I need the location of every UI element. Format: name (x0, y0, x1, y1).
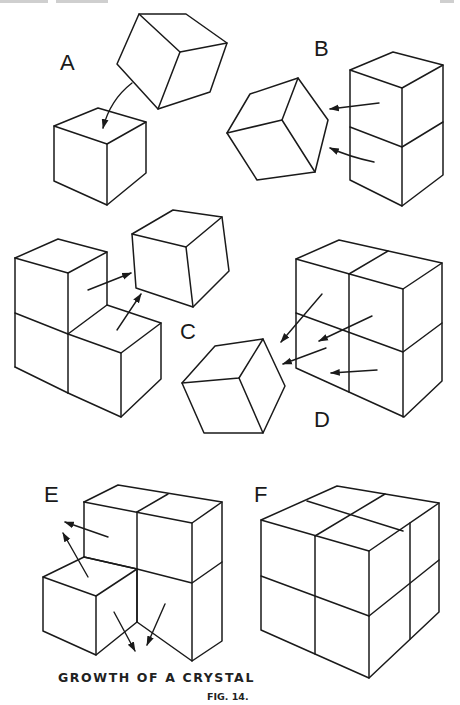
arrow-d-3 (283, 348, 326, 364)
crystal-growth-figure: A B (0, 0, 460, 705)
panel-b: B (227, 36, 443, 206)
arrow-b-upper (330, 103, 379, 109)
cube-free-c (132, 210, 229, 307)
arrow-b-lower (330, 148, 374, 162)
cube-base-a (54, 108, 146, 205)
panel-label-f: F (254, 482, 267, 507)
arrow-d-1 (281, 294, 322, 342)
panel-c: C (15, 210, 229, 417)
panel-f: F (254, 482, 439, 678)
arrow-e-left (65, 522, 108, 537)
arrow-attach-a (103, 83, 132, 128)
arrow-d-4 (331, 370, 377, 373)
panel-a: A (54, 14, 227, 205)
panel-label-c: C (180, 319, 196, 344)
cube-block-d (296, 240, 442, 417)
panel-d: D (182, 240, 442, 433)
cube-stack-b (350, 52, 443, 206)
cube-incoming-d (182, 339, 285, 433)
panel-label-e: E (44, 482, 59, 507)
cube-block-e (43, 485, 222, 661)
cube-complete-f (261, 486, 439, 678)
cube-group-c (15, 239, 161, 417)
figure-title: GROWTH OF A CRYSTAL (58, 670, 255, 685)
figure-number: FIG. 14. (207, 691, 249, 702)
panel-label-b: B (314, 36, 329, 61)
arrow-c-side (88, 273, 131, 290)
cube-floating-a (117, 14, 227, 109)
cube-loose-b (227, 78, 328, 180)
arrow-e-down-left (114, 612, 135, 651)
panel-label-d: D (314, 407, 330, 432)
arrow-c-top (117, 294, 141, 330)
arrow-e-down-right (147, 604, 165, 645)
panel-e: E (43, 482, 222, 661)
panel-label-a: A (60, 50, 75, 75)
